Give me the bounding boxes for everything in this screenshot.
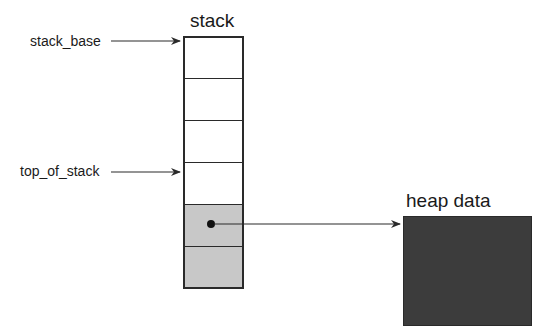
pointer-dot [207,220,215,228]
arrows-layer [0,0,555,335]
